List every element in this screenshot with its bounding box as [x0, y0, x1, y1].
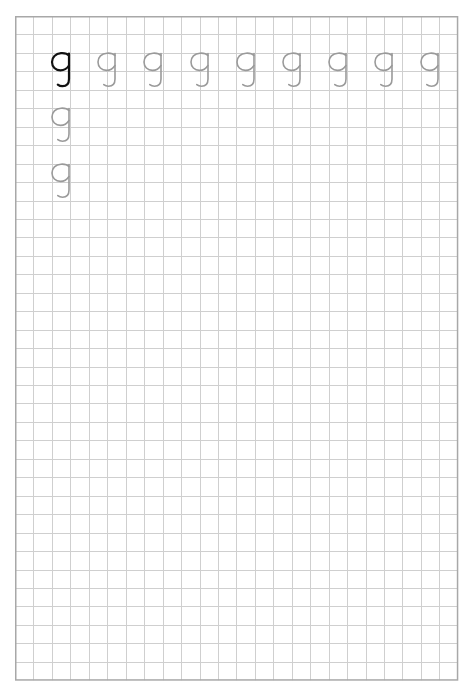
letter-g-glyph: [280, 52, 304, 92]
letter-g-glyph: [372, 52, 396, 92]
letter-g-glyph: [49, 52, 73, 92]
model-letter-g: [49, 52, 73, 92]
letter-g-glyph: [95, 52, 119, 92]
trace-letter-g: [234, 52, 258, 92]
letter-g-glyph: [49, 107, 73, 147]
trace-letter-g: [280, 52, 304, 92]
trace-letter-g: [95, 52, 119, 92]
trace-letter-g: [141, 52, 165, 92]
trace-letter-g: [372, 52, 396, 92]
letter-g-glyph: [49, 163, 73, 203]
letter-g-glyph: [188, 52, 212, 92]
trace-letter-g: [326, 52, 350, 92]
letter-g-glyph: [141, 52, 165, 92]
practice-grid-sheet: [15, 16, 458, 678]
trace-letter-g: [418, 52, 442, 92]
trace-letter-g: [188, 52, 212, 92]
grid-lines: [15, 16, 459, 682]
letter-g-glyph: [418, 52, 442, 92]
trace-letter-g: [49, 107, 73, 147]
trace-letter-g: [49, 163, 73, 203]
letter-g-glyph: [326, 52, 350, 92]
letter-g-glyph: [234, 52, 258, 92]
